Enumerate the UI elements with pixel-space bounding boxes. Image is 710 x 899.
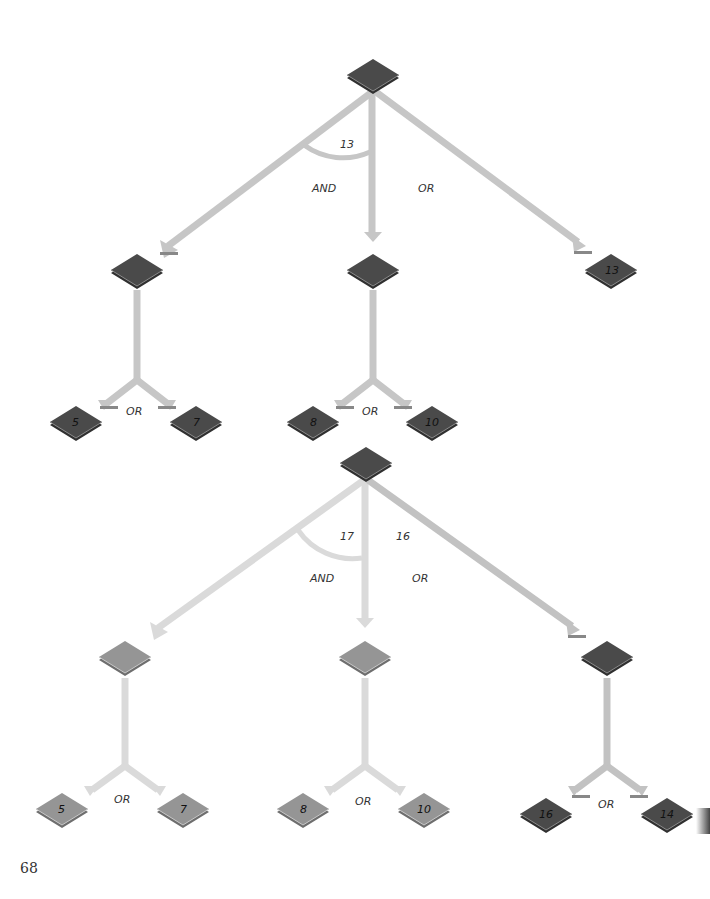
tree1-and-label: AND [311, 182, 336, 195]
tree2-leaf-16-label: 16 [539, 808, 553, 821]
tree2-or-value: 16 [396, 530, 410, 543]
tree1-root-node [347, 59, 399, 94]
tree2-leaf-8-label: 8 [300, 803, 307, 816]
tree1-node-left [111, 254, 163, 289]
tree2-right-or-label: OR [598, 798, 614, 811]
page-edge-tab [696, 808, 710, 834]
tree1-node-middle [347, 254, 399, 289]
tree2-leaf-10-label: 10 [417, 803, 431, 816]
tree1-leaf-8-label: 8 [310, 416, 317, 429]
tree2-node-right [581, 641, 633, 676]
tree2-leaf-14-label: 14 [660, 808, 674, 821]
tree1-middle-or-label: OR [362, 405, 378, 418]
tree2-leaf-5-label: 5 [58, 803, 65, 816]
tree1-left-or-label: OR [126, 405, 142, 418]
tree2-leaf-7-label: 7 [180, 803, 187, 816]
tree2-or-label: OR [412, 572, 428, 585]
tree2-and-value: 17 [340, 530, 354, 543]
tree2-node-middle [339, 641, 391, 676]
tree1-leaf-5-label: 5 [72, 416, 79, 429]
tree2-left-or-label: OR [114, 793, 130, 806]
and-or-tree-diagram: 13 AND OR 13 OR OR 5 7 8 10 [0, 0, 710, 899]
tree1-and-value: 13 [340, 138, 354, 151]
tree1-or-label: OR [418, 182, 434, 195]
tree2-node-left [99, 641, 151, 676]
tree2-and-label: AND [309, 572, 334, 585]
tree-1: 13 AND OR 13 OR OR 5 7 8 10 [50, 59, 637, 441]
tree2-middle-or-label: OR [355, 795, 371, 808]
tree1-leaf-10-label: 10 [425, 416, 439, 429]
page-number: 68 [20, 860, 38, 876]
tree2-root-node [340, 447, 392, 482]
tree1-leaf-7-label: 7 [193, 416, 200, 429]
tree-2: 17 16 AND OR OR OR OR 5 7 8 10 16 14 [36, 447, 693, 833]
tree1-node-right-value: 13 [605, 264, 619, 277]
